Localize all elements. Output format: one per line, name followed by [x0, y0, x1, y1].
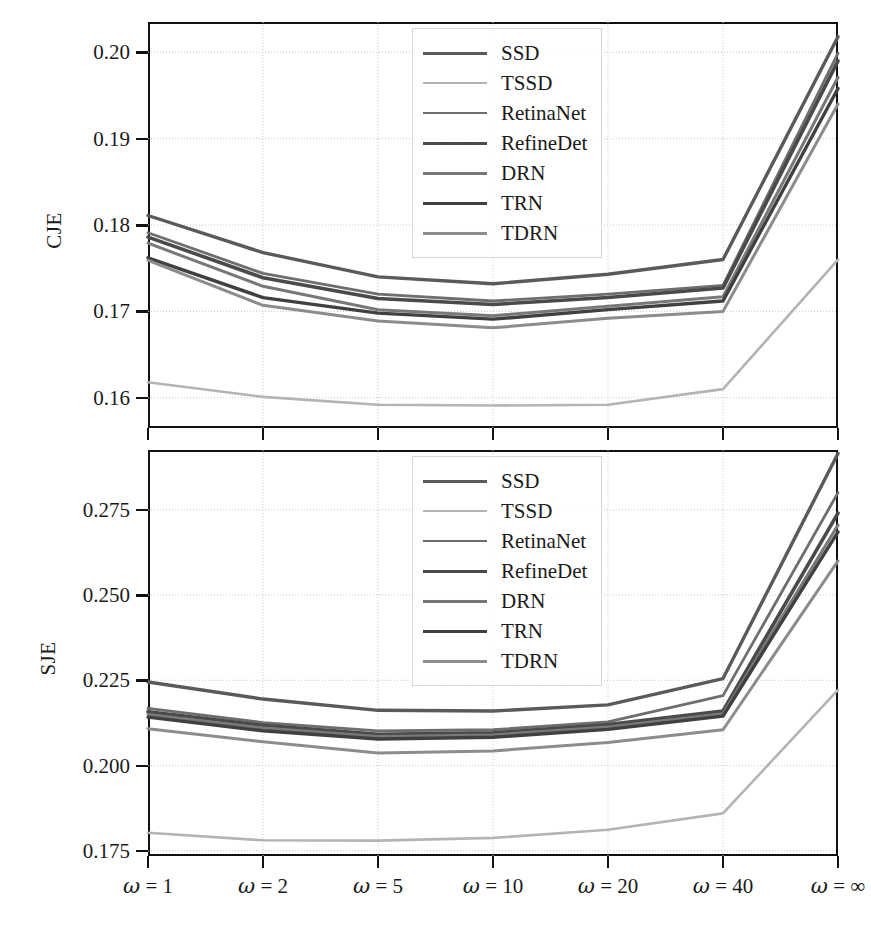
legend-item-drn[interactable]: DRN: [423, 586, 587, 616]
legend-item-label: TRN: [501, 193, 543, 214]
legend-swatch-line-icon: [423, 172, 487, 175]
legend-item-trn[interactable]: TRN: [423, 188, 587, 218]
legend-swatch-line-icon: [423, 600, 487, 603]
sje-y-tick-mark: [136, 679, 148, 682]
legend-item-tssd[interactable]: TSSD: [423, 496, 587, 526]
x-tick-mark: [837, 856, 840, 868]
legend-item-label: RetinaNet: [501, 531, 586, 552]
legend-item-label: RetinaNet: [501, 103, 586, 124]
x-tick-mark: [377, 856, 380, 868]
sje-y-tick-label: 0.200: [30, 753, 130, 778]
legend-swatch-line-icon: [423, 232, 487, 235]
legend-item-trn[interactable]: TRN: [423, 616, 587, 646]
legend-item-tdrn[interactable]: TDRN: [423, 218, 587, 248]
sje-y-tick-label: 0.275: [30, 497, 130, 522]
x-tick-label: ω = 1: [123, 874, 173, 899]
legend-item-tdrn[interactable]: TDRN: [423, 646, 587, 676]
sje-legend: SSDTSSDRetinaNetRefineDetDRNTRNTDRN: [412, 456, 602, 686]
cje-y-tick-label: 0.18: [30, 213, 130, 238]
x-tick-mark: [377, 428, 380, 440]
sje-y-tick-mark: [136, 509, 148, 512]
cje-legend: SSDTSSDRetinaNetRefineDetDRNTRNTDRN: [412, 28, 602, 258]
legend-item-refinedet[interactable]: RefineDet: [423, 556, 587, 586]
legend-swatch-line-icon: [423, 112, 487, 114]
legend-item-retinanet[interactable]: RetinaNet: [423, 526, 587, 556]
cje-y-tick-mark: [136, 138, 148, 141]
cje-y-tick-mark: [136, 51, 148, 54]
legend-swatch-line-icon: [423, 52, 487, 55]
legend-item-refinedet[interactable]: RefineDet: [423, 128, 587, 158]
legend-item-label: TDRN: [501, 223, 558, 244]
legend-item-label: TRN: [501, 621, 543, 642]
legend-swatch-line-icon: [423, 82, 487, 84]
x-tick-mark: [147, 428, 150, 440]
legend-item-label: TSSD: [501, 501, 552, 522]
sje-y-tick-label: 0.225: [30, 668, 130, 693]
legend-swatch-line-icon: [423, 480, 487, 483]
legend-swatch-line-icon: [423, 660, 487, 663]
legend-swatch-line-icon: [423, 510, 487, 512]
legend-item-label: DRN: [501, 591, 545, 612]
sje-y-tick-mark: [136, 594, 148, 597]
cje-y-tick-label: 0.20: [30, 40, 130, 65]
x-tick-mark: [607, 856, 610, 868]
cje-y-tick-label: 0.16: [30, 385, 130, 410]
legend-swatch-line-icon: [423, 202, 487, 205]
cje-y-tick-mark: [136, 397, 148, 400]
x-tick-label: ω = 5: [353, 874, 403, 899]
x-tick-mark: [262, 428, 265, 440]
legend-swatch-line-icon: [423, 630, 487, 633]
sje-axis-title: SJE: [36, 599, 61, 719]
legend-item-label: RefineDet: [501, 561, 587, 582]
legend-item-tssd[interactable]: TSSD: [423, 68, 587, 98]
x-tick-mark: [492, 856, 495, 868]
legend-item-label: RefineDet: [501, 133, 587, 154]
x-tick-mark: [492, 428, 495, 440]
x-tick-label: ω = 40: [693, 874, 753, 899]
legend-item-retinanet[interactable]: RetinaNet: [423, 98, 587, 128]
legend-swatch-line-icon: [423, 142, 487, 145]
cje-y-tick-label: 0.17: [30, 299, 130, 324]
x-tick-label: ω = 10: [463, 874, 523, 899]
x-tick-mark: [147, 856, 150, 868]
x-tick-label: ω = 20: [578, 874, 638, 899]
sje-y-tick-mark: [136, 850, 148, 853]
x-tick-mark: [837, 428, 840, 440]
x-tick-mark: [722, 856, 725, 868]
x-tick-label: ω = 2: [238, 874, 288, 899]
legend-swatch-line-icon: [423, 540, 487, 542]
legend-item-label: SSD: [501, 471, 540, 492]
cje-y-tick-mark: [136, 224, 148, 227]
x-tick-mark: [262, 856, 265, 868]
figure-root: CJE 0.160.170.180.190.20 SSDTSSDRetinaNe…: [0, 0, 871, 934]
legend-item-ssd[interactable]: SSD: [423, 38, 587, 68]
x-tick-mark: [607, 428, 610, 440]
legend-swatch-line-icon: [423, 570, 487, 573]
sje-y-tick-mark: [136, 765, 148, 768]
sje-y-tick-label: 0.250: [30, 583, 130, 608]
legend-item-label: SSD: [501, 43, 540, 64]
cje-y-tick-label: 0.19: [30, 126, 130, 151]
legend-item-label: TSSD: [501, 73, 552, 94]
cje-y-tick-mark: [136, 310, 148, 313]
sje-y-tick-label: 0.175: [30, 838, 130, 863]
legend-item-label: DRN: [501, 163, 545, 184]
legend-item-label: TDRN: [501, 651, 558, 672]
legend-item-ssd[interactable]: SSD: [423, 466, 587, 496]
x-tick-label: ω = ∞: [811, 874, 865, 899]
x-tick-mark: [722, 428, 725, 440]
legend-item-drn[interactable]: DRN: [423, 158, 587, 188]
